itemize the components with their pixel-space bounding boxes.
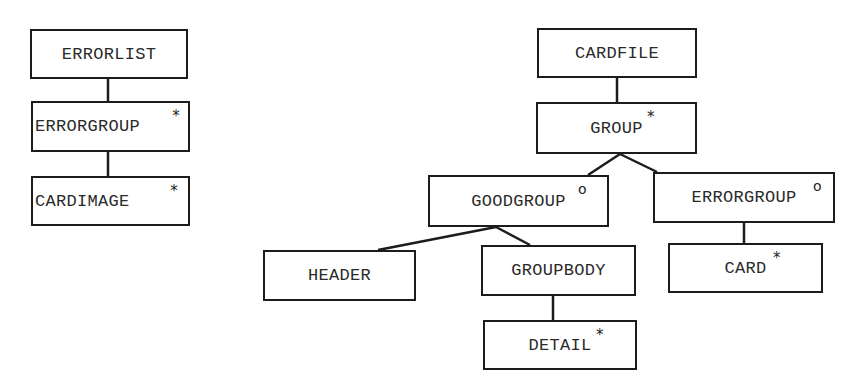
- edge-group-errorgroup: [620, 154, 657, 172]
- node-label: GROUP: [590, 119, 643, 138]
- node-label: GROUPBODY: [511, 261, 606, 280]
- node-label: GOODGROUP: [471, 192, 566, 211]
- iteration-marker: *: [596, 326, 604, 344]
- node-card: CARD *: [668, 243, 823, 293]
- node-label: CARDFILE: [575, 44, 659, 63]
- node-errorlist: ERRORLIST: [30, 29, 188, 79]
- iteration-marker: *: [172, 107, 180, 125]
- node-errorgroup-left: ERRORGROUP *: [31, 101, 190, 152]
- iteration-marker: *: [647, 108, 655, 126]
- node-label: ERRORLIST: [62, 45, 157, 64]
- node-label: CARDIMAGE: [35, 192, 130, 211]
- node-groupbody: GROUPBODY: [481, 245, 636, 296]
- diagram-canvas: ERRORLIST ERRORGROUP * CARDIMAGE * CARDF…: [0, 0, 864, 388]
- node-errorgroup-right: ERRORGROUP o: [653, 172, 835, 223]
- node-cardimage: CARDIMAGE *: [31, 176, 190, 226]
- node-group: GROUP *: [536, 102, 697, 154]
- node-label: ERRORGROUP: [691, 188, 796, 207]
- edge-group-goodgroup: [588, 154, 620, 175]
- node-detail: DETAIL *: [483, 320, 637, 370]
- node-label: CARD: [724, 259, 766, 278]
- edge-goodgroup-groupbody: [496, 227, 530, 245]
- node-header: HEADER: [263, 250, 416, 301]
- edge-goodgroup-header: [378, 227, 496, 250]
- selection-marker: o: [578, 181, 587, 197]
- node-goodgroup: GOODGROUP o: [428, 175, 609, 227]
- node-label: ERRORGROUP: [35, 117, 140, 136]
- selection-marker: o: [813, 178, 822, 194]
- node-label: HEADER: [308, 266, 371, 285]
- iteration-marker: *: [773, 249, 781, 267]
- node-cardfile: CARDFILE: [537, 28, 697, 78]
- node-label: DETAIL: [528, 336, 591, 355]
- iteration-marker: *: [170, 182, 178, 200]
